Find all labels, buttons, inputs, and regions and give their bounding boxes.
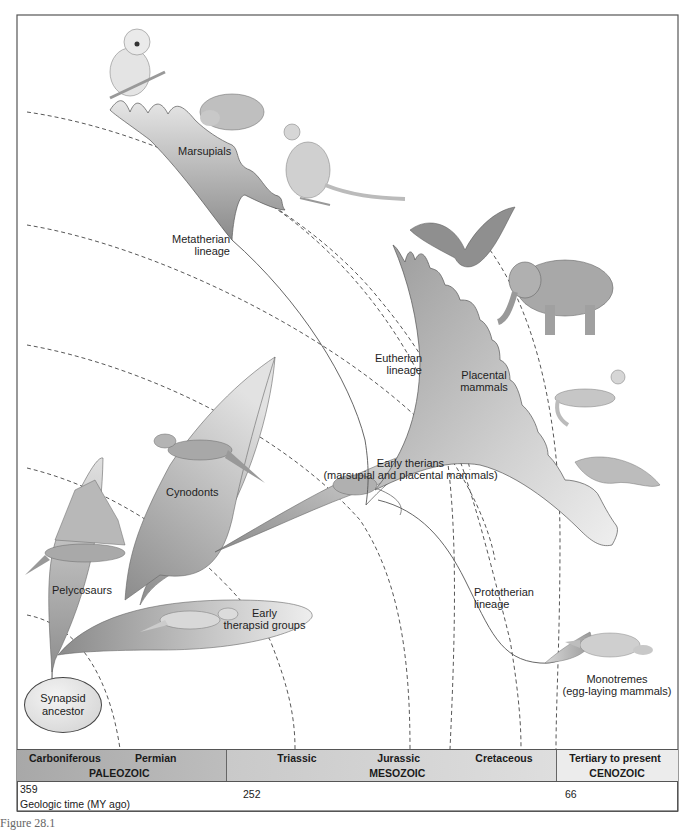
era-paleozoic: Carboniferous Permian PALEOZOIC: [17, 750, 227, 781]
tick-66: 66: [565, 788, 577, 800]
era-row: Carboniferous Permian PALEOZOIC Triassic…: [17, 750, 678, 782]
time-ticks: 359 252 66 Geologic time (MY ago): [17, 782, 678, 812]
label-cynodonts: Cynodonts: [166, 486, 219, 498]
manatee-icon: [575, 457, 660, 486]
time-axis-label: Geologic time (MY ago): [20, 798, 130, 810]
kangaroo-icon: [284, 124, 405, 205]
label-prototherian-lineage: Prototherian lineage: [474, 586, 534, 610]
period-permian: Permian: [135, 752, 176, 764]
mammal-evolution-figure: Marsupials Metatherian lineage Eutherian…: [0, 0, 693, 831]
wombat-icon: [200, 94, 264, 130]
figure-caption: Figure 28.1: [0, 816, 55, 831]
period-jurassic: Jurassic: [377, 752, 420, 764]
era-label-mesozoic: MESOZOIC: [369, 767, 425, 779]
label-metatherian-lineage: Metatherian lineage: [172, 233, 230, 257]
tick-359: 359: [20, 783, 38, 795]
elephant-icon: [498, 260, 613, 335]
prototherian-lineage-line: [378, 500, 568, 663]
period-cretaceous: Cretaceous: [475, 752, 532, 764]
synapsid-ancestor-node: Synapsid ancestor: [24, 677, 102, 733]
dimetrodon-icon: [25, 480, 125, 575]
label-pelycosaurs: Pelycosaurs: [52, 584, 112, 596]
label-monotremes: Monotremes (egg-laying mammals): [562, 673, 672, 697]
tick-252: 252: [243, 788, 261, 800]
era-label-cenozoic: CENOZOIC: [589, 767, 644, 779]
label-placental-mammals: Placental mammals: [449, 369, 519, 393]
period-triassic: Triassic: [277, 752, 316, 764]
era-label-paleozoic: PALEOZOIC: [89, 767, 149, 779]
koala-icon: [110, 29, 165, 98]
label-marsupials: Marsupials: [178, 145, 231, 157]
label-early-therapsid-groups: Early therapsid groups: [222, 607, 307, 631]
geologic-timeline: Carboniferous Permian PALEOZOIC Triassic…: [17, 749, 678, 812]
ferret-icon: [555, 370, 625, 425]
period-carboniferous: Carboniferous: [29, 752, 101, 764]
label-eutherian-lineage: Eutherian lineage: [362, 352, 422, 376]
era-cenozoic: Tertiary to present CENOZOIC: [557, 750, 678, 781]
period-tertiary: Tertiary to present: [569, 752, 660, 764]
era-mesozoic: Triassic Jurassic Cretaceous MESOZOIC: [227, 750, 557, 781]
label-early-therians: Early therians (marsupial and placental …: [298, 457, 523, 481]
diagram-canvas: [0, 0, 693, 831]
